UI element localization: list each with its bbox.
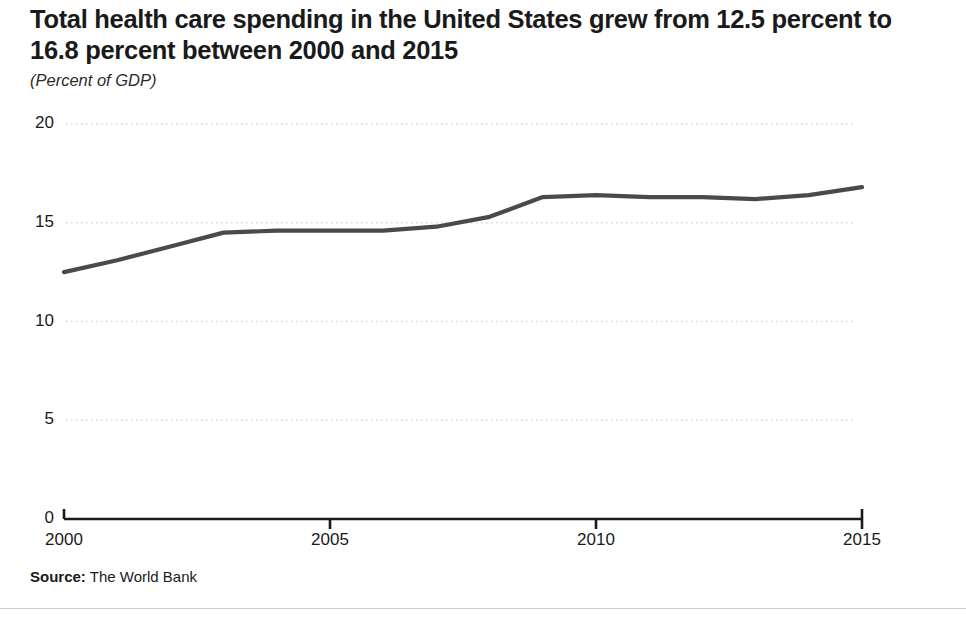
- source-label: Source:: [30, 568, 86, 585]
- y-axis-tick-label: 10: [14, 311, 54, 331]
- chart-card: Total health care spending in the United…: [0, 0, 966, 622]
- line-chart-svg: [0, 0, 966, 622]
- y-axis-tick-label: 0: [14, 508, 54, 528]
- y-axis-tick-label: 5: [14, 409, 54, 429]
- source-note: Source: The World Bank: [30, 568, 197, 585]
- x-axis-tick-label: 2015: [822, 530, 902, 550]
- chart-plot-area: 05101520 2000200520102015: [0, 0, 966, 622]
- x-axis-tick-label: 2010: [556, 530, 636, 550]
- axis-group: [64, 509, 862, 529]
- data-series-line: [64, 187, 862, 272]
- x-axis-tick-label: 2000: [24, 530, 104, 550]
- bottom-divider: [0, 608, 966, 609]
- y-axis-tick-label: 15: [14, 212, 54, 232]
- x-axis-tick-label: 2005: [290, 530, 370, 550]
- gridlines-group: [66, 124, 856, 420]
- source-value: The World Bank: [90, 568, 197, 585]
- y-axis-tick-label: 20: [14, 113, 54, 133]
